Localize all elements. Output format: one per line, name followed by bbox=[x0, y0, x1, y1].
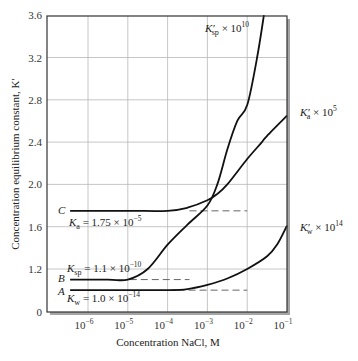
y-tick-label: 2.8 bbox=[28, 94, 42, 106]
ka-prime-label: K′a × 105 bbox=[299, 104, 337, 121]
y-tick-labels: 01.21.62.02.42.83.23.6 bbox=[28, 9, 42, 318]
curve-letter-b: B bbox=[58, 272, 65, 284]
x-axis-label: Concentration NaCl, M bbox=[116, 336, 220, 348]
x-tick-label: 10−1 bbox=[274, 317, 293, 331]
y-tick-label: 3.2 bbox=[28, 52, 42, 64]
x-tick-label: 10−3 bbox=[194, 317, 213, 331]
y-axis-label: Concentration equilibrium constant, K′ bbox=[9, 78, 21, 250]
y-tick-label: 3.6 bbox=[28, 9, 42, 21]
x-tick-labels: 10−610−510−410−310−210−1 bbox=[75, 317, 293, 331]
curve-letter-c: C bbox=[58, 204, 66, 216]
equilibrium-constant-chart: 01.21.62.02.42.83.23.6 10−610−510−410−31… bbox=[0, 0, 358, 361]
y-tick-label: 1.6 bbox=[28, 221, 42, 233]
x-tick-label: 10−4 bbox=[154, 317, 173, 331]
kw-prime-label: K′w × 1014 bbox=[299, 219, 343, 236]
curve-letter-a: A bbox=[57, 285, 65, 297]
y-tick-label: 0 bbox=[37, 306, 43, 318]
y-tick-label: 1.2 bbox=[28, 263, 42, 275]
y-tick-label: 2.4 bbox=[28, 136, 42, 148]
x-tick-label: 10−5 bbox=[114, 317, 133, 331]
y-tick-label: 2.0 bbox=[28, 178, 42, 190]
x-tick-label: 10−2 bbox=[234, 317, 253, 331]
x-tick-label: 10−6 bbox=[75, 317, 94, 331]
